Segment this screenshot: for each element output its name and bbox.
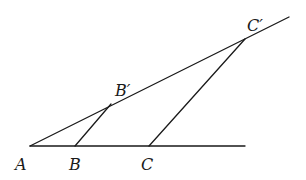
geometry-diagram: A B C B′ C′ bbox=[0, 0, 306, 180]
label-C-prime: C′ bbox=[247, 18, 263, 34]
label-C: C bbox=[141, 157, 153, 173]
label-A: A bbox=[15, 157, 27, 173]
segment-C-Cprime bbox=[149, 39, 245, 146]
label-B: B bbox=[69, 157, 81, 173]
label-B-prime: B′ bbox=[115, 83, 130, 99]
segment-B-Bprime bbox=[75, 104, 111, 146]
slanted-line bbox=[30, 17, 289, 146]
